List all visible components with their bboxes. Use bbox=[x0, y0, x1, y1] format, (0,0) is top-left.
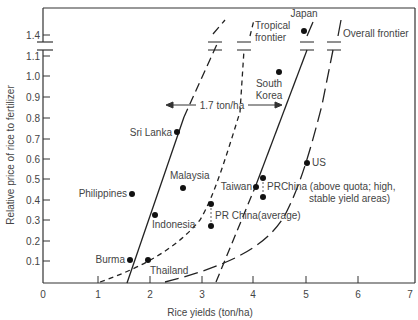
y-tick-label: 0.1 bbox=[26, 256, 40, 267]
label-prchina-quota-1: PRChina (above quota; high, bbox=[267, 181, 395, 192]
point-indonesia bbox=[152, 212, 158, 218]
x-ticks bbox=[98, 276, 358, 283]
y-tick-label: 0.6 bbox=[26, 154, 40, 165]
x-tick-label: 5 bbox=[303, 289, 309, 300]
label-tropical-2: frontier bbox=[255, 32, 287, 43]
label-us: US bbox=[312, 157, 326, 168]
y-ticks bbox=[43, 35, 50, 261]
japan-frontier-solid bbox=[256, 50, 307, 185]
y-tick-label: 0.7 bbox=[26, 134, 40, 145]
label-sri-lanka: Sri Lanka bbox=[130, 127, 173, 138]
label-thailand: Thailand bbox=[150, 265, 188, 276]
y-tick-label: 0.3 bbox=[26, 215, 40, 226]
x-tick-label: 2 bbox=[147, 289, 153, 300]
label-tropical-1: Tropical bbox=[255, 20, 290, 31]
gap-label: 1.7 ton/ha bbox=[200, 100, 245, 111]
label-south: South bbox=[256, 78, 282, 89]
label-overall-frontier: Overall frontier bbox=[343, 28, 409, 39]
x-tick-label: 3 bbox=[199, 289, 205, 300]
y-tick-labels: 1.4 1.1 1.0 0.9 0.8 0.7 0.6 0.5 0.4 0.3 … bbox=[26, 30, 40, 267]
point-prchina-avg-high bbox=[208, 201, 214, 207]
point-taiwan bbox=[253, 184, 259, 190]
x-tick-label: 7 bbox=[407, 289, 413, 300]
x-axis-title: Rice yields (ton/ha) bbox=[167, 307, 253, 318]
point-malaysia bbox=[180, 185, 186, 191]
label-taiwan: Taiwan bbox=[221, 181, 252, 192]
point-south-korea bbox=[276, 69, 282, 75]
label-japan: Japan bbox=[290, 8, 317, 19]
frontier-lines bbox=[100, 20, 341, 283]
y-tick-label: 0.9 bbox=[26, 92, 40, 103]
point-prchina-quota-low bbox=[260, 194, 266, 200]
point-japan bbox=[301, 28, 307, 34]
label-burma: Burma bbox=[96, 254, 126, 265]
y-tick-label: 0.8 bbox=[26, 113, 40, 124]
x-tick-labels: 0 1 2 3 4 5 6 7 bbox=[40, 289, 413, 300]
y-axis-title: Relative price of rice to fertilizer bbox=[5, 85, 16, 225]
x-tick-label: 1 bbox=[95, 289, 101, 300]
x-tick-label: 6 bbox=[355, 289, 361, 300]
x-tick-label: 4 bbox=[250, 289, 256, 300]
point-burma bbox=[127, 257, 133, 263]
point-thailand bbox=[145, 257, 151, 263]
x-tick-label: 0 bbox=[40, 289, 46, 300]
plot-frame bbox=[37, 8, 415, 283]
label-korea: Korea bbox=[256, 90, 283, 101]
y-tick-label: 0.4 bbox=[26, 195, 40, 206]
japan-frontier-dashed bbox=[216, 185, 256, 282]
label-indonesia: Indonesia bbox=[152, 219, 196, 230]
point-prchina-quota-high bbox=[260, 175, 266, 181]
rice-yield-chart: 1.4 1.1 1.0 0.9 0.8 0.7 0.6 0.5 0.4 0.3 … bbox=[0, 0, 418, 320]
label-prchina-quota-2: stable yield areas) bbox=[309, 193, 390, 204]
y-tick-label: 1.4 bbox=[26, 30, 40, 41]
overall-frontier-line bbox=[165, 50, 333, 282]
point-philippines bbox=[129, 191, 135, 197]
y-tick-label: 1.0 bbox=[26, 71, 40, 82]
y-tick-label: 1.1 bbox=[26, 51, 40, 62]
frontier-line-a-solid bbox=[127, 117, 184, 283]
point-us bbox=[304, 160, 310, 166]
point-prchina-avg-low bbox=[208, 223, 214, 229]
y-tick-label: 0.5 bbox=[26, 174, 40, 185]
point-sri-lanka bbox=[174, 129, 180, 135]
label-malaysia: Malaysia bbox=[170, 170, 210, 181]
y-tick-label: 0.2 bbox=[26, 236, 40, 247]
label-prchina-avg: PR China(average) bbox=[215, 210, 301, 221]
point-labels: Japan Tropical frontier Overall frontier… bbox=[79, 8, 410, 276]
tropical-frontier-line bbox=[100, 50, 244, 282]
label-philippines: Philippines bbox=[79, 188, 127, 199]
